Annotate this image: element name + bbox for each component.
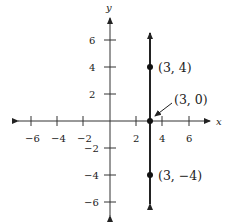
x-tick-label: −6: [25, 133, 40, 144]
point-label: (3, 0): [174, 92, 208, 107]
y-tick-label: 2: [89, 89, 95, 100]
x-tick-label: 2: [133, 133, 139, 144]
y-tick-label: −4: [84, 170, 99, 181]
x-tick-label: 4: [159, 133, 165, 144]
point-3-0: [147, 118, 153, 124]
x-axis-label: x: [216, 116, 222, 127]
x-tick-label: −4: [51, 133, 66, 144]
point-3-4: [147, 64, 153, 70]
y-tick-label: 4: [89, 62, 95, 73]
point-3-neg4: [147, 172, 153, 178]
point-label: (3, −4): [158, 168, 202, 183]
y-tick-label: −6: [84, 197, 99, 208]
point-label: (3, 4): [158, 60, 192, 75]
y-axis-label: y: [105, 2, 112, 13]
y-tick-label: −2: [84, 143, 99, 154]
coordinate-plane: x y −6 −4 −2 2 4 6 6 4 2 −2 −4 −6 (3, 4)…: [0, 0, 228, 224]
annotation-arrow: [155, 103, 172, 116]
y-tick-label: 6: [89, 35, 95, 46]
x-tick-label: 6: [186, 133, 192, 144]
